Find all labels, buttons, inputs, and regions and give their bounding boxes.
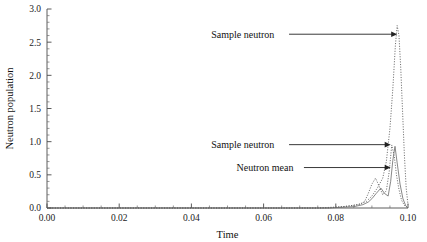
x-tick-label: 0.02: [111, 213, 128, 223]
y-tick-label: 1.0: [29, 137, 41, 147]
chart-figure: 0.000.020.040.060.080.100.00.51.01.52.02…: [0, 0, 427, 242]
series-solid: [47, 146, 408, 208]
annotation-arrow-icon: [385, 142, 391, 148]
y-tick-label: 0.0: [29, 203, 41, 213]
annotation-label: Sample neutron: [211, 139, 274, 150]
y-tick-label: 1.5: [29, 104, 41, 114]
y-tick-label: 0.5: [29, 170, 41, 180]
neutron-population-plot: 0.000.020.040.060.080.100.00.51.01.52.02…: [0, 0, 427, 242]
y-tick-label: 2.0: [29, 71, 41, 81]
y-tick-label: 3.0: [29, 4, 41, 14]
x-axis-title: Time: [217, 229, 239, 240]
series-dotted: [47, 145, 408, 208]
series-dotted: [47, 26, 408, 208]
y-axis-title: Neutron population: [4, 67, 15, 150]
x-tick-label: 0.10: [400, 213, 417, 223]
y-tick-label: 2.5: [29, 38, 41, 48]
x-tick-label: 0.06: [255, 213, 272, 223]
x-tick-label: 0.08: [327, 213, 344, 223]
annotation-label: Sample neutron: [211, 29, 274, 40]
x-tick-label: 0.04: [183, 213, 200, 223]
annotation-label: Neutron mean: [237, 162, 294, 173]
x-tick-label: 0.00: [39, 213, 56, 223]
